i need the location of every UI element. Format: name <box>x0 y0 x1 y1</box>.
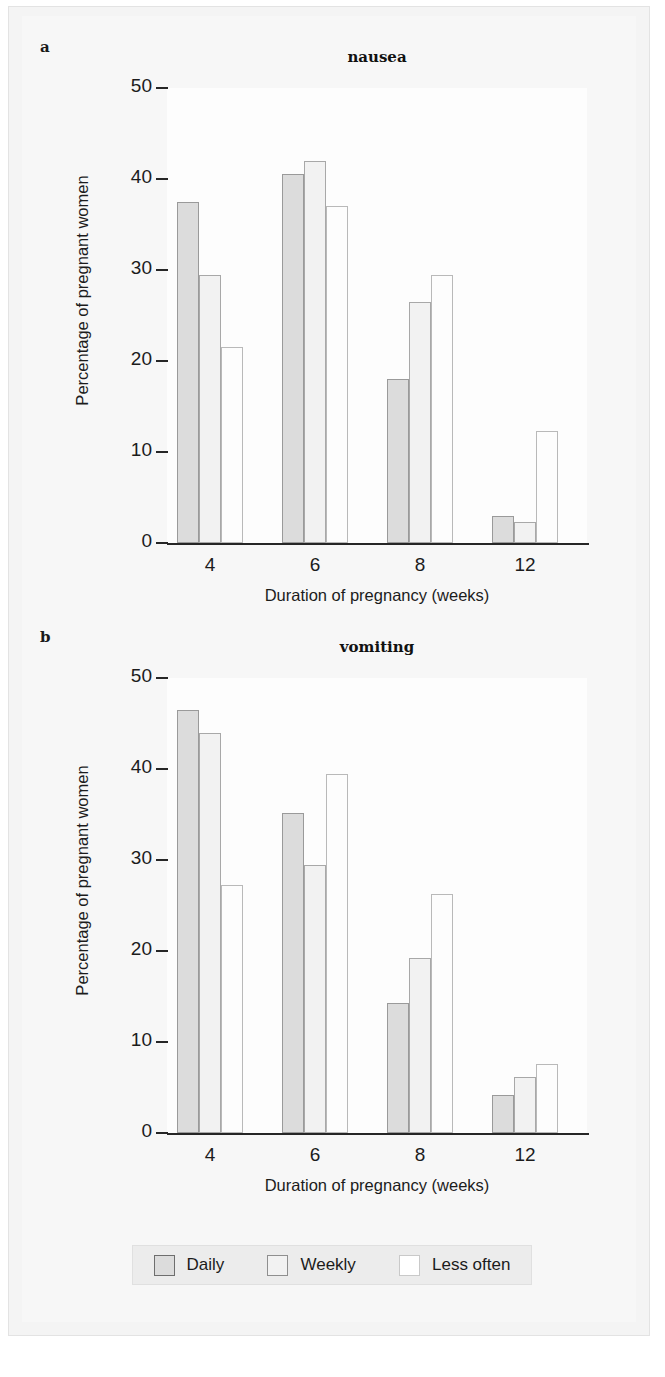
figure-page: a nausea Percentage of pregnant women Du… <box>0 0 665 1377</box>
bar-daily-12wk <box>492 1095 514 1133</box>
legend: DailyWeeklyLess often <box>132 1245 532 1285</box>
legend-swatch-icon-weekly <box>267 1255 288 1276</box>
figure-frame: a nausea Percentage of pregnant women Du… <box>8 6 650 1336</box>
bar-weekly-6wk <box>304 161 326 543</box>
panel-a-y-axis-label: Percentage of pregnant women <box>73 101 92 481</box>
bar-lessoften-6wk <box>326 206 348 543</box>
bar-lessoften-8wk <box>431 894 453 1133</box>
bar-weekly-6wk <box>304 865 326 1133</box>
bar-lessoften-4wk <box>221 885 243 1133</box>
panel-a-x-axis-line <box>167 543 589 545</box>
panel-b-plot-area <box>167 678 587 1133</box>
y-tick-label-40: 40 <box>108 756 152 778</box>
legend-label-weekly: Weekly <box>300 1255 355 1275</box>
y-tick-label-20: 20 <box>108 938 152 960</box>
bar-daily-4wk <box>177 202 199 543</box>
x-tick-label-6: 6 <box>285 554 345 576</box>
bar-weekly-8wk <box>409 958 431 1133</box>
y-tick-label-40: 40 <box>108 166 152 188</box>
x-tick-label-8: 8 <box>390 554 450 576</box>
panel-b-y-axis-label: Percentage of pregnant women <box>73 691 92 1071</box>
x-tick-label-8: 8 <box>390 1144 450 1166</box>
panel-a-plot-area <box>167 88 587 543</box>
panel-a-title: nausea <box>167 48 587 66</box>
legend-swatch-icon-daily <box>154 1255 175 1276</box>
bar-lessoften-6wk <box>326 774 348 1133</box>
y-tick-label-50: 50 <box>108 665 152 687</box>
y-tick-30 <box>156 269 168 271</box>
panel-b-title: vomiting <box>167 638 587 656</box>
figure-caption <box>40 1368 625 1377</box>
bar-weekly-12wk <box>514 522 536 543</box>
bar-weekly-8wk <box>409 302 431 543</box>
x-tick-label-12: 12 <box>495 554 555 576</box>
bar-weekly-12wk <box>514 1077 536 1133</box>
y-tick-label-20: 20 <box>108 348 152 370</box>
y-tick-50 <box>156 87 168 89</box>
x-tick-label-4: 4 <box>180 554 240 576</box>
y-tick-10 <box>156 451 168 453</box>
bar-lessoften-4wk <box>221 347 243 543</box>
y-tick-label-30: 30 <box>108 257 152 279</box>
legend-label-daily: Daily <box>187 1255 225 1275</box>
panel-letter-b: b <box>40 628 51 646</box>
panel-b-x-axis-label: Duration of pregnancy (weeks) <box>167 1176 587 1195</box>
y-tick-20 <box>156 950 168 952</box>
y-tick-0 <box>156 1132 168 1134</box>
bar-weekly-4wk <box>199 733 221 1133</box>
bar-daily-6wk <box>282 174 304 543</box>
bar-lessoften-12wk <box>536 431 558 543</box>
bar-lessoften-12wk <box>536 1064 558 1133</box>
x-tick-label-6: 6 <box>285 1144 345 1166</box>
legend-item-weekly[interactable]: Weekly <box>267 1255 355 1276</box>
bar-lessoften-8wk <box>431 275 453 543</box>
panel-b-x-axis-line <box>167 1133 589 1135</box>
y-tick-label-50: 50 <box>108 75 152 97</box>
y-tick-label-0: 0 <box>108 530 152 552</box>
bar-daily-4wk <box>177 710 199 1133</box>
y-tick-50 <box>156 677 168 679</box>
panel-a: a nausea Percentage of pregnant women Du… <box>22 26 636 601</box>
bar-daily-8wk <box>387 379 409 543</box>
y-tick-label-0: 0 <box>108 1120 152 1142</box>
x-tick-label-4: 4 <box>180 1144 240 1166</box>
y-tick-40 <box>156 768 168 770</box>
y-tick-label-10: 10 <box>108 1029 152 1051</box>
bar-weekly-4wk <box>199 275 221 543</box>
bar-daily-12wk <box>492 516 514 543</box>
y-tick-10 <box>156 1041 168 1043</box>
legend-item-daily[interactable]: Daily <box>154 1255 225 1276</box>
y-tick-label-10: 10 <box>108 439 152 461</box>
y-tick-label-30: 30 <box>108 847 152 869</box>
legend-item-lessoften[interactable]: Less often <box>399 1255 510 1276</box>
bar-daily-8wk <box>387 1003 409 1133</box>
bar-daily-6wk <box>282 813 304 1133</box>
panel-letter-a: a <box>40 38 50 56</box>
y-tick-40 <box>156 178 168 180</box>
y-tick-30 <box>156 859 168 861</box>
y-tick-20 <box>156 360 168 362</box>
x-tick-label-12: 12 <box>495 1144 555 1166</box>
panel-b: b vomiting Percentage of pregnant women … <box>22 616 636 1176</box>
legend-label-lessoften: Less often <box>432 1255 510 1275</box>
y-tick-0 <box>156 542 168 544</box>
panel-a-x-axis-label: Duration of pregnancy (weeks) <box>167 586 587 605</box>
legend-swatch-icon-lessoften <box>399 1255 420 1276</box>
figure-inner: a nausea Percentage of pregnant women Du… <box>22 16 636 1322</box>
